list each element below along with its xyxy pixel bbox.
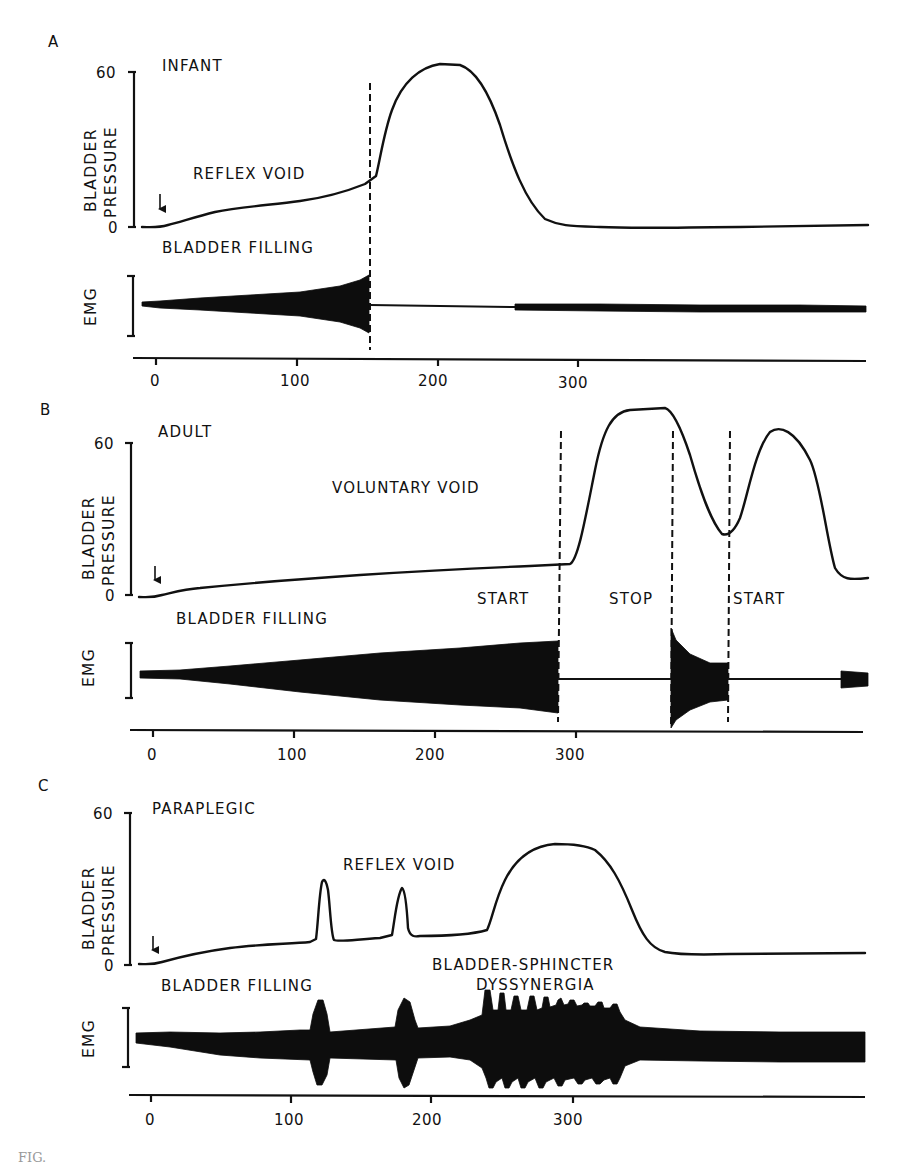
x-tick: 100 [280,372,310,390]
x-axis: 0 100 200 300 [129,1095,865,1129]
event-label-start: START [477,590,529,608]
figure-caption: FIG. [18,1150,46,1165]
event-label-start-2: START [733,590,785,608]
emg-trace-burst [671,628,728,728]
panel-letter: B [40,401,50,419]
panel-letter: C [38,777,48,795]
emg-baseline [370,305,515,307]
filling-label: BLADDER FILLING [162,239,314,257]
x-tick: 300 [555,746,585,764]
subject-label: ADULT [158,423,212,441]
panel-c: C PARAPLEGIC 60 0 BLADDER PRESSURE REFLE… [38,777,865,1129]
x-tick: 200 [412,1111,442,1129]
pressure-trace [139,844,865,964]
y-axis: 60 0 BLADDER PRESSURE [80,805,132,975]
x-tick: 0 [150,372,160,390]
emg-trace [142,275,369,333]
emg-trace-tonic [515,304,866,312]
x-tick: 100 [277,746,307,764]
y-tick-60: 60 [94,435,114,453]
x-tick: 200 [415,746,445,764]
y-axis-label: BLADDER [80,866,98,950]
event-label-stop: STOP [609,590,653,608]
y-axis: 60 0 BLADDER PRESSURE [82,64,136,237]
x-tick: 200 [418,372,448,390]
emg-label: EMG [82,287,100,326]
x-tick: 0 [147,746,157,764]
x-tick: 300 [558,374,588,392]
y-tick-0: 0 [104,957,114,975]
x-axis: 0 100 200 300 [133,358,866,392]
y-axis-label-2: PRESSURE [100,494,118,586]
x-tick: 300 [553,1111,583,1129]
y-axis-label-2: PRESSURE [102,126,120,218]
void-label: REFLEX VOID [343,856,455,874]
void-label: VOLUNTARY VOID [332,479,480,497]
filling-label: BLADDER FILLING [161,977,313,995]
y-tick-0: 0 [108,219,118,237]
y-axis-label: BLADDER [82,128,100,212]
emg-scale: EMG [80,643,133,698]
dyssynergia-label-2: DYSSYNERGIA [476,976,595,994]
y-tick-0: 0 [105,587,115,605]
x-tick: 100 [274,1111,304,1129]
x-tick: 0 [145,1111,155,1129]
emg-trace [140,641,558,713]
subject-label: PARAPLEGIC [152,800,256,818]
pressure-trace [139,408,868,597]
y-axis-label-2: PRESSURE [100,864,118,956]
emg-trace [136,990,865,1088]
subject-label: INFANT [162,57,223,75]
y-tick-60: 60 [93,805,113,823]
panel-a: A INFANT 60 0 BLADDER PRESSURE REFLEX VO… [48,33,868,392]
y-axis-label: BLADDER [80,496,98,580]
emg-label: EMG [80,1019,98,1058]
void-label: REFLEX VOID [193,165,305,183]
panel-letter: A [48,33,59,51]
panel-b: B ADULT 60 0 BLADDER PRESSURE VOLUNTARY … [40,401,868,764]
emg-scale: EMG [80,1008,130,1067]
filling-label: BLADDER FILLING [176,610,328,628]
dyssynergia-label: BLADDER-SPHINCTER [432,956,615,974]
emg-scale: EMG [82,276,135,336]
y-tick-60: 60 [96,64,116,82]
y-axis: 60 0 BLADDER PRESSURE [80,435,133,605]
emg-label: EMG [80,648,98,687]
pressure-trace [142,64,868,228]
emg-trace-tonic [841,671,868,688]
x-axis: 0 100 200 300 [130,730,863,764]
